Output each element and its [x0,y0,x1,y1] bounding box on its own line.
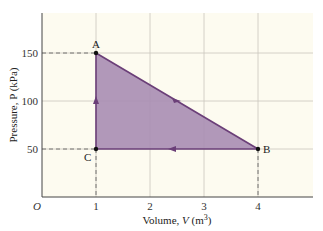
x-tick-3: 3 [201,200,207,212]
y-tick-150: 150 [22,47,39,59]
x-tick-1: 1 [93,200,99,212]
origin-label: O [33,200,41,212]
x-tick-2: 2 [147,200,153,212]
x-tick-4: 4 [255,200,261,212]
x-axis-label: Volume, V (m3) [143,213,212,227]
label-c: C [84,151,91,163]
y-tick-100: 100 [22,95,39,107]
y-axis-label: Pressure, P (kPa) [7,67,20,142]
label-b: B [263,143,270,155]
pv-diagram: A B C 150 100 50 1 2 3 4 O Volume, V (m3… [0,0,323,231]
label-a: A [92,38,100,50]
y-tick-50: 50 [27,143,39,155]
point-b [256,147,260,151]
point-c [94,147,98,151]
point-a [94,51,98,55]
